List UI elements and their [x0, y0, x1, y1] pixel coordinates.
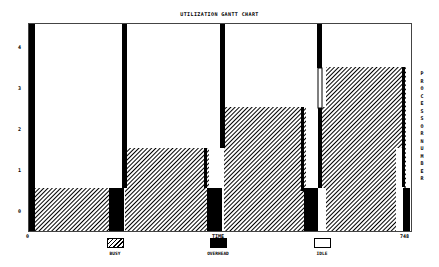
busy-block — [125, 148, 209, 231]
y-axis-title: PROCESSOR NUMBER — [419, 70, 425, 183]
y-tick-3: 3 — [18, 85, 21, 91]
y-tick-4: 4 — [18, 44, 21, 50]
legend-overhead-swatch — [210, 238, 227, 248]
legend-idle-label: IDLE — [297, 251, 347, 256]
x-tick-start: 0 — [26, 233, 29, 239]
legend-idle-swatch — [314, 238, 331, 248]
y-tick-1: 1 — [18, 167, 21, 173]
x-tick-end: 748 — [400, 233, 409, 239]
legend-busy-swatch — [107, 238, 124, 248]
legend-overhead-label: OVERHEAD — [193, 251, 243, 256]
gantt-svg — [29, 24, 411, 231]
plot-area — [28, 23, 412, 232]
y-tick-0: 0 — [18, 208, 21, 214]
overhead-block — [109, 188, 124, 231]
busy-block — [30, 188, 109, 231]
chart-title: UTILIZATION GANTT CHART — [0, 11, 439, 17]
y-tick-2: 2 — [18, 126, 21, 132]
overhead-bar — [29, 24, 35, 231]
legend-busy-label: BUSY — [90, 251, 140, 256]
